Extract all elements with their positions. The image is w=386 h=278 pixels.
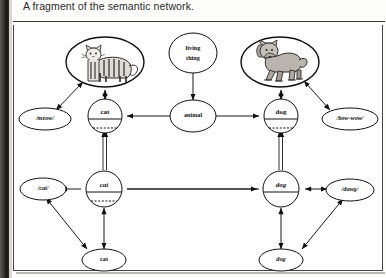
node-animal[interactable]: animal: [170, 100, 216, 132]
node-dog-lexeme-label: dog: [276, 181, 287, 189]
edge-catphon-catword: [46, 198, 87, 249]
edge-cat-concept-lexeme: [101, 131, 108, 171]
node-cat-lexeme-label: cat: [100, 181, 110, 189]
edge-dog-concept-lexeme: [277, 131, 284, 171]
node-dog-picture[interactable]: [241, 37, 319, 87]
node-living-thing-label-2: thing: [186, 54, 201, 61]
node-dog-phoneme[interactable]: /dawg/: [326, 179, 374, 201]
node-bow-wow[interactable]: /bow-wow/: [322, 108, 378, 130]
node-cat-word-label: cat: [100, 255, 109, 262]
edge-meow-catpicture: [56, 82, 83, 110]
node-cat-concept[interactable]: cat: [88, 99, 122, 133]
node-dog-word[interactable]: dog: [259, 249, 303, 271]
node-living-thing-label-1: living: [186, 44, 202, 51]
node-dog-concept-label: dog: [276, 108, 287, 116]
node-cat-phoneme[interactable]: /cat/: [20, 178, 66, 200]
node-dog-word-label: dog: [276, 255, 285, 262]
semantic-network-svg: living thing animal: [0, 0, 386, 278]
node-animal-label: animal: [184, 111, 203, 118]
node-living-thing[interactable]: living thing: [169, 33, 217, 73]
node-cat-lexeme[interactable]: cat: [86, 171, 122, 207]
node-dog-phoneme-label: /dawg/: [341, 185, 360, 192]
node-cat-picture[interactable]: [66, 37, 144, 87]
edge-dogphon-dogword: [302, 199, 343, 249]
node-dog-concept[interactable]: dog: [264, 99, 298, 133]
figure-page: A fragment of the semantic network.: [0, 0, 386, 278]
node-cat-word[interactable]: cat: [82, 249, 126, 271]
node-bow-wow-label: /bow-wow/: [335, 114, 364, 121]
node-cat-concept-label: cat: [101, 108, 111, 116]
node-cat-phoneme-label: /cat/: [37, 184, 50, 191]
node-meow-label: /meow/: [35, 114, 55, 121]
edge-bowwow-dogpicture: [304, 81, 330, 110]
node-dog-lexeme[interactable]: dog: [263, 171, 299, 207]
node-meow[interactable]: /meow/: [19, 108, 71, 130]
